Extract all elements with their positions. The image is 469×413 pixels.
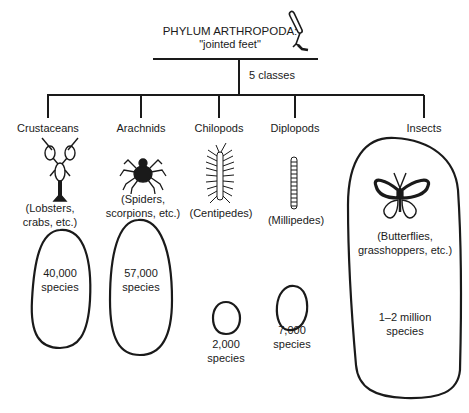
species-diplopods-label: species — [262, 338, 322, 351]
examples-diplopods: (Millipedes) — [261, 214, 331, 227]
phylum-title: PHYLUM ARTHROPODA: — [160, 25, 300, 38]
branch-label: 5 classes — [242, 69, 302, 82]
species-insects-count: 1–2 million — [365, 311, 445, 324]
species-arachnids-count: 57,000 — [110, 267, 172, 280]
lobster-icon — [42, 138, 78, 201]
species-insects-label: species — [365, 325, 445, 338]
arthropoda-diagram: PHYLUM ARTHROPODA: "jointed feet" 5 clas… — [0, 0, 469, 413]
species-crustaceans-count: 40,000 — [30, 267, 90, 280]
butterfly-icon — [375, 173, 428, 218]
centipede-icon — [206, 143, 234, 203]
examples-arachnids-line1: (Spiders, — [100, 193, 186, 206]
species-chilopods-count: 2,000 — [196, 338, 256, 351]
species-chilopods-label: species — [196, 352, 256, 365]
class-name-crustaceans: Crustaceans — [8, 122, 88, 135]
class-name-chilopods: Chilopods — [186, 122, 252, 135]
species-diplopods-count: 7,000 — [262, 324, 322, 337]
chilopods-species-blob — [213, 302, 240, 334]
class-name-diplopods: Diplopods — [262, 122, 328, 135]
class-name-insects: Insects — [394, 122, 454, 135]
phylum-subtitle: "jointed feet" — [195, 38, 265, 51]
class-name-arachnids: Arachnids — [106, 122, 176, 135]
examples-crustaceans-line1: (Lobsters, — [10, 202, 90, 215]
examples-insects-line1: (Butterflies, — [355, 230, 455, 243]
examples-arachnids-line2: scorpions, etc.) — [100, 207, 186, 220]
examples-crustaceans-line2: crabs, etc.) — [10, 216, 90, 229]
spider-icon — [120, 159, 166, 194]
species-arachnids-label: species — [110, 281, 172, 294]
millipede-icon — [291, 157, 297, 209]
species-crustaceans-label: species — [30, 281, 90, 294]
examples-insects-line2: grasshoppers, etc.) — [350, 244, 460, 257]
examples-chilopods: (Centipedes) — [183, 207, 259, 220]
